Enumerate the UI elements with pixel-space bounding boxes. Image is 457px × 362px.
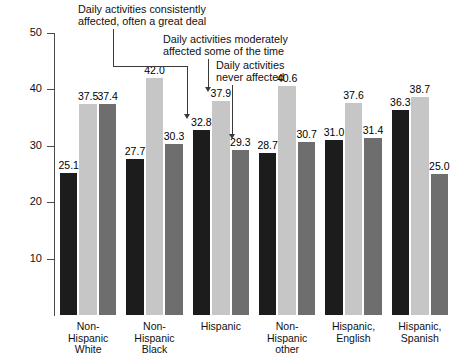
y-axis-tick [47, 202, 55, 203]
bar [165, 144, 183, 315]
bar [99, 104, 117, 315]
bar [146, 78, 164, 315]
y-axis-tick [47, 146, 55, 147]
annotation-moderately-affected-arrow-icon [205, 87, 211, 92]
bar-value-label: 30.7 [292, 129, 322, 140]
bar [392, 110, 410, 315]
y-axis-tick-label: 30 [12, 139, 42, 151]
bar [193, 130, 211, 315]
annotation-never-affected-arrow-icon [229, 134, 235, 139]
bar-value-label: 31.4 [358, 125, 388, 136]
y-axis-tick-label: 50 [12, 26, 42, 38]
bar [212, 101, 230, 315]
y-axis-tick-label: 10 [12, 252, 42, 264]
bar-value-label: 38.7 [405, 84, 435, 95]
bar [259, 153, 277, 315]
bar [60, 173, 78, 315]
bar-value-label: 25.0 [425, 161, 455, 172]
bar [431, 174, 449, 315]
bar [232, 150, 250, 315]
annotation-moderately-affected-leader-vertical [208, 59, 209, 88]
annotation-consistently-affected-leader-drop [187, 66, 188, 115]
annotation-consistently-affected-text: Daily activities consistently affected, … [78, 3, 228, 27]
y-axis-tick [47, 89, 55, 90]
annotation-moderately-affected-text: Daily activities moderately affected som… [163, 33, 313, 57]
bar [325, 140, 343, 315]
bar [79, 104, 97, 316]
annotation-never-affected-leader-vertical [232, 85, 233, 135]
bar [126, 159, 144, 315]
annotation-consistently-affected-leader-horizontal [113, 66, 187, 67]
bar-value-label: 30.3 [159, 131, 189, 142]
annotation-consistently-affected-leader-vertical [113, 29, 114, 66]
annotation-consistently-affected-arrow-icon [184, 114, 190, 119]
y-axis-tick [47, 33, 55, 34]
bar [364, 138, 382, 315]
bar [278, 86, 296, 315]
y-axis-tick [47, 259, 55, 260]
x-axis-category-label: Hispanic, Spanish [381, 321, 457, 344]
bar-value-label: 37.4 [93, 91, 123, 102]
bar-chart: 1020304050 25.137.537.427.742.030.332.83… [0, 0, 457, 362]
bar-value-label: 37.6 [339, 90, 369, 101]
annotation-never-affected-text: Daily activities never affected [216, 59, 326, 83]
bar [298, 142, 316, 315]
y-axis-tick-label: 40 [12, 82, 42, 94]
y-axis-tick-label: 20 [12, 195, 42, 207]
bar [411, 97, 429, 315]
